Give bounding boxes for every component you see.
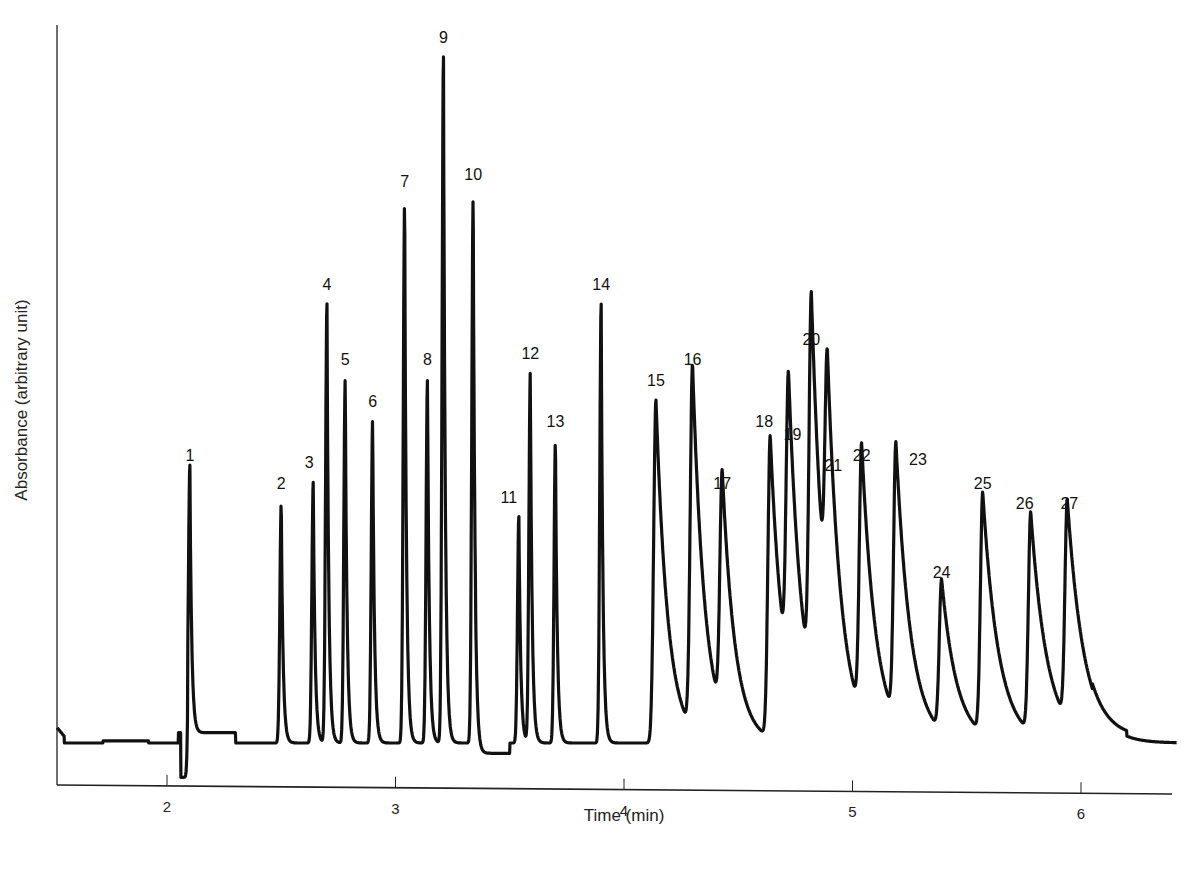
x-axis-line (57, 785, 1172, 794)
peak-label-16: 16 (684, 351, 702, 368)
peak-label-23: 23 (909, 451, 927, 468)
peak-label-5: 5 (341, 351, 350, 368)
peak-label-12: 12 (521, 345, 539, 362)
x-tick-label: 5 (848, 803, 856, 820)
x-tick-label: 2 (163, 798, 171, 815)
peak-label-26: 26 (1016, 495, 1034, 512)
x-tick-label: 3 (391, 800, 399, 817)
peak-label-3: 3 (305, 454, 314, 471)
peak-labels: 1234567891011121314151617181920212223242… (185, 29, 1078, 581)
chromatogram-trace (57, 57, 1176, 777)
peak-label-19: 19 (784, 426, 802, 443)
peak-label-9: 9 (439, 29, 448, 46)
peak-label-1: 1 (185, 447, 194, 464)
peak-label-22: 22 (853, 447, 871, 464)
peak-label-4: 4 (322, 276, 331, 293)
peak-label-13: 13 (547, 413, 565, 430)
peak-label-15: 15 (647, 372, 665, 389)
x-tick-label: 6 (1077, 805, 1085, 822)
peak-label-21: 21 (824, 457, 842, 474)
chromatogram-chart: 1234567891011121314151617181920212223242… (0, 0, 1203, 874)
peak-label-17: 17 (713, 475, 731, 492)
peak-label-24: 24 (933, 564, 951, 581)
peak-label-8: 8 (423, 351, 432, 368)
y-axis-label: Absorbance (arbitrary unit) (12, 299, 32, 500)
peak-label-14: 14 (592, 276, 610, 293)
peak-label-10: 10 (464, 166, 482, 183)
peak-label-27: 27 (1060, 495, 1078, 512)
peak-label-6: 6 (368, 393, 377, 410)
peak-label-25: 25 (974, 475, 992, 492)
peak-label-7: 7 (400, 173, 409, 190)
peak-label-20: 20 (802, 331, 820, 348)
x-axis-label: Time (min) (584, 806, 665, 826)
peak-label-2: 2 (277, 475, 286, 492)
peak-label-11: 11 (501, 489, 518, 506)
peak-label-18: 18 (755, 413, 773, 430)
